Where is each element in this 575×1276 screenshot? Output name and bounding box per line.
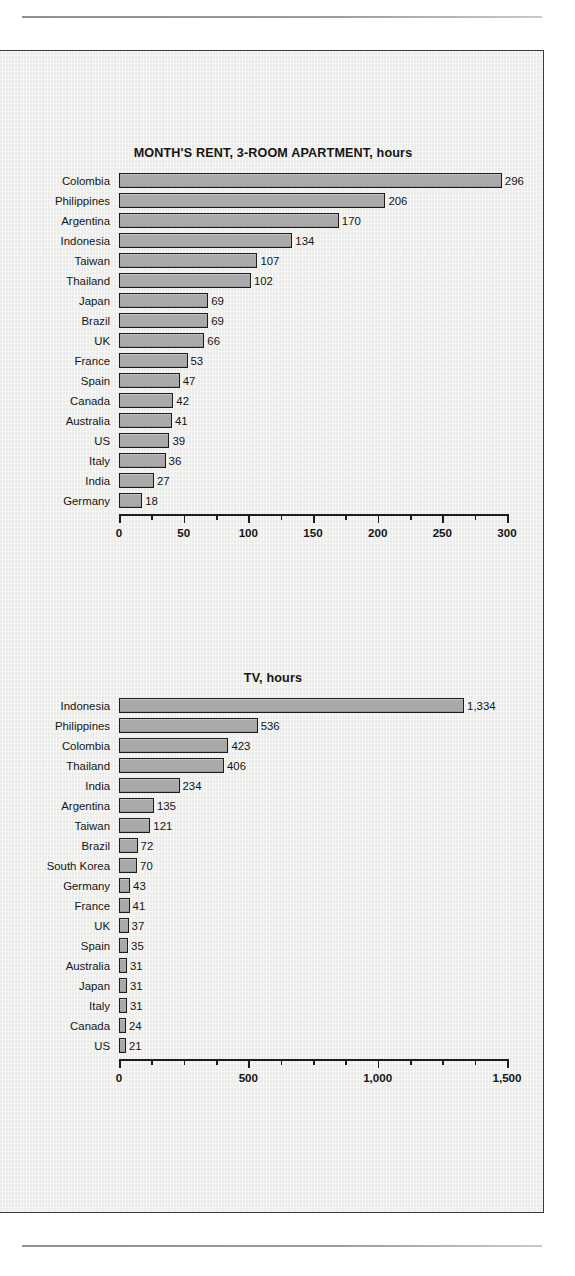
bar-value-label: 36 (166, 451, 182, 471)
bar (119, 838, 138, 853)
bar-value-label: 66 (204, 331, 220, 351)
x-axis-minor-tick (475, 514, 477, 520)
bar-track: 135 (119, 796, 544, 816)
bar-category-label: Indonesia (0, 696, 119, 716)
bar-row: Philippines536 (0, 716, 544, 736)
bar-row: Brazil72 (0, 836, 544, 856)
bar (119, 313, 208, 328)
bar-track: 47 (119, 371, 544, 391)
figure-panel: MONTH'S RENT, 3-ROOM APARTMENT, hours Co… (0, 50, 544, 1213)
bar-row: Taiwan107 (0, 251, 544, 271)
bar-track: 31 (119, 956, 544, 976)
bar (119, 898, 130, 913)
bar (119, 958, 127, 973)
bar (119, 233, 292, 248)
x-axis-minor-tick (345, 514, 347, 520)
bar-track: 36 (119, 451, 544, 471)
bar-row: Colombia296 (0, 171, 544, 191)
bar-value-label: 39 (169, 431, 185, 451)
bar-track: 1,334 (119, 696, 544, 716)
bar-track: 31 (119, 996, 544, 1016)
bar (119, 173, 502, 188)
bar-value-label: 37 (129, 916, 145, 936)
x-axis-tick-label: 0 (116, 526, 122, 539)
bar-row: Italy31 (0, 996, 544, 1016)
bar-row: South Korea70 (0, 856, 544, 876)
bar (119, 213, 339, 228)
bar-track: 43 (119, 876, 544, 896)
bar (119, 293, 208, 308)
bar-row: Japan31 (0, 976, 544, 996)
x-axis-major-tick (378, 1059, 380, 1068)
bar-category-label: Taiwan (0, 816, 119, 836)
bar-value-label: 21 (126, 1036, 142, 1056)
bar-category-label: South Korea (0, 856, 119, 876)
bar-category-label: Australia (0, 411, 119, 431)
bar-track: 41 (119, 411, 544, 431)
bar-value-label: 206 (385, 191, 407, 211)
bar-row: Japan69 (0, 291, 544, 311)
bar-category-label: US (0, 1036, 119, 1056)
bar (119, 738, 228, 753)
bar-row: Germany43 (0, 876, 544, 896)
bar-value-label: 53 (188, 351, 204, 371)
bar-category-label: Italy (0, 996, 119, 1016)
bar-category-label: Colombia (0, 736, 119, 756)
bar-value-label: 406 (224, 756, 246, 776)
x-axis-major-tick (378, 514, 380, 523)
bar (119, 698, 464, 713)
x-axis-minor-tick (410, 1059, 412, 1065)
bar-category-label: Thailand (0, 756, 119, 776)
bar (119, 998, 127, 1013)
bar-category-label: Italy (0, 451, 119, 471)
bar-category-label: US (0, 431, 119, 451)
bar-category-label: France (0, 896, 119, 916)
bar (119, 393, 173, 408)
bar-value-label: 41 (172, 411, 188, 431)
bar-row: Australia41 (0, 411, 544, 431)
bar-value-label: 107 (257, 251, 279, 271)
bar-value-label: 1,334 (464, 696, 496, 716)
x-axis-minor-tick (151, 1059, 153, 1065)
bar-value-label: 234 (180, 776, 202, 796)
bar (119, 353, 188, 368)
bar (119, 878, 130, 893)
bar (119, 413, 172, 428)
x-axis-minor-tick (216, 514, 218, 520)
bar-row: Philippines206 (0, 191, 544, 211)
bar-value-label: 31 (127, 976, 143, 996)
bar-row: Australia31 (0, 956, 544, 976)
bar-value-label: 27 (154, 471, 170, 491)
bar-category-label: Thailand (0, 271, 119, 291)
bar-value-label: 24 (126, 1016, 142, 1036)
bar (119, 938, 128, 953)
bar-value-label: 31 (127, 996, 143, 1016)
bar-row: Germany18 (0, 491, 544, 511)
bar-value-label: 42 (173, 391, 189, 411)
bar-value-label: 69 (208, 291, 224, 311)
bar-track: 39 (119, 431, 544, 451)
bar-category-label: UK (0, 916, 119, 936)
bar-track: 27 (119, 471, 544, 491)
bar (119, 798, 154, 813)
bar-track: 21 (119, 1036, 544, 1056)
bar-track: 296 (119, 171, 544, 191)
chart-tv: TV, hours Indonesia1,334Philippines536Co… (0, 671, 544, 1090)
bar-category-label: Indonesia (0, 231, 119, 251)
x-axis-major-tick (248, 514, 250, 523)
bar (119, 778, 180, 793)
x-axis-tick-label: 1,000 (363, 1071, 392, 1084)
bar (119, 333, 204, 348)
bar-category-label: Germany (0, 876, 119, 896)
x-axis-minor-tick (410, 514, 412, 520)
x-axis-tick-label: 150 (303, 526, 322, 539)
bar-track: 24 (119, 1016, 544, 1036)
bar-track: 234 (119, 776, 544, 796)
bar-track: 536 (119, 716, 544, 736)
bar (119, 453, 166, 468)
chart-title-tv: TV, hours (0, 671, 544, 685)
x-axis-tv: 05001,0001,500 (119, 1056, 544, 1090)
x-axis-major-tick (507, 1059, 509, 1068)
bar-category-label: India (0, 471, 119, 491)
bar-value-label: 536 (258, 716, 280, 736)
